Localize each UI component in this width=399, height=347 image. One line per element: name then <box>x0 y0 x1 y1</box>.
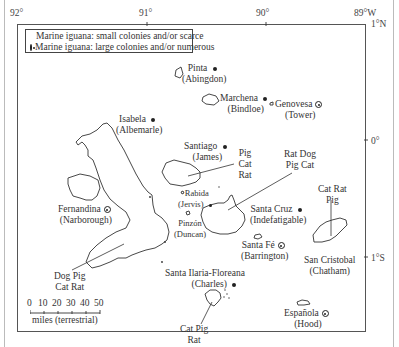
small-colony-dot-icon <box>298 208 302 212</box>
scale-unit: miles (terrestrial) <box>32 315 98 326</box>
label-floreana: Santa Ilaria-Floreana (Charles) <box>165 268 245 290</box>
fernandina-outline <box>68 174 100 200</box>
label-rabida: Rabida (Jervis) <box>178 188 216 210</box>
isabela-outline <box>76 123 169 268</box>
legend-row-small: Marine iguana: small colonies and/or sca… <box>29 31 189 42</box>
small-colony-dot-icon <box>232 283 236 287</box>
santiago-outline <box>162 160 200 186</box>
predators-santiago: Pig Cat Rat <box>232 148 258 181</box>
label-espanola: Española (Hood) <box>284 308 332 330</box>
large-colony-dot-icon <box>30 44 32 51</box>
legend-large-label: Marine iguana: large colonies and/or num… <box>35 42 214 53</box>
san-cristobal-outline <box>313 218 347 242</box>
predators-floreana: Cat Pig Rat <box>180 324 208 346</box>
scale-tick-50: 50 <box>94 298 104 309</box>
large-colony-dot-icon <box>104 206 111 213</box>
large-colony-dot-icon <box>315 101 322 108</box>
label-fernandina: Fernandina (Narborough) <box>58 204 114 226</box>
scale-tick-40: 40 <box>80 298 90 309</box>
label-genovesa: Genovesa (Tower) <box>275 99 325 121</box>
marchena-outline <box>202 94 219 105</box>
scale-tick-0: 0 <box>27 298 32 309</box>
legend: Marine iguana: small colonies and/or sca… <box>25 29 193 53</box>
scale-tick-10: 10 <box>38 298 48 309</box>
small-colony-dot-icon <box>209 204 212 207</box>
predators-san-cristobal: Cat Rat Pig <box>318 184 347 206</box>
label-marchena: Marchena (Bindloe) <box>220 93 271 115</box>
santiago-predator-line <box>188 164 234 176</box>
scale-tick-20: 20 <box>52 298 62 309</box>
label-santiago: Santiago (James) <box>184 141 231 163</box>
label-pinta: Pinta (Abingdon) <box>182 63 226 85</box>
small-colony-dot-icon <box>151 118 155 122</box>
predators-santa-cruz: Rat Dog Pig Cat <box>284 149 316 171</box>
predators-isabela: Dog Pig Cat Rat <box>54 271 85 293</box>
scale-bar: 0 10 20 30 40 50 miles (terrestrial) <box>28 300 98 326</box>
scale-tick-30: 30 <box>66 298 76 309</box>
label-santa-cruz: Santa Cruz (Indefatigable) <box>250 204 306 226</box>
small-colony-dot-icon <box>263 97 267 101</box>
label-pinzon: Pinzón (Duncan) <box>174 218 206 240</box>
floreana-predator-line <box>201 302 212 324</box>
legend-small-label: Marine iguana: small colonies and/or sca… <box>36 31 204 42</box>
floreana-outline <box>205 290 221 306</box>
small-colony-dot-icon <box>223 145 227 149</box>
label-isabela: Isabela (Albemarle) <box>116 114 162 136</box>
small-colony-dot-icon <box>213 67 217 71</box>
legend-row-large: Marine iguana: large colonies and/or num… <box>29 42 189 53</box>
large-colony-dot-icon <box>322 310 329 317</box>
label-santa-fe: Santa Fé (Barrington) <box>241 240 289 262</box>
large-colony-dot-icon <box>278 242 285 249</box>
label-san-cristobal: San Cristobal (Chatham) <box>304 255 355 277</box>
